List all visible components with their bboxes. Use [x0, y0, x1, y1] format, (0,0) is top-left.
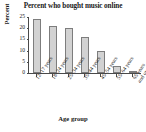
- y-axis-title: Percent: [2, 0, 12, 36]
- bar-chart: Percent who bought music online Percent …: [0, 0, 146, 132]
- x-axis-label-slot: 45–54 years: [93, 77, 109, 111]
- x-axis-label-slot: 18–24 years: [44, 77, 60, 111]
- y-axis-tick-label: 10: [19, 47, 25, 54]
- bar[interactable]: [33, 19, 41, 73]
- x-axis-label-slot: 65 yearsand over: [125, 77, 141, 111]
- y-axis-tick-label: 0: [22, 69, 25, 76]
- y-axis-tick-label: 20: [19, 24, 25, 31]
- x-axis-tick-labels: 12–17 years18–24 years25–34 years35–44 y…: [28, 77, 141, 111]
- y-axis-tick-label: 25: [19, 13, 25, 20]
- x-axis-label-slot: 55–64 years: [109, 77, 125, 111]
- x-axis-label-slot: 35–44 years: [76, 77, 92, 111]
- x-axis-label-slot: 12–17 years: [28, 77, 44, 111]
- y-axis-tick-label: 5: [22, 58, 25, 65]
- y-axis-tick-label: 15: [19, 35, 25, 42]
- x-axis-label-slot: 25–34 years: [60, 77, 76, 111]
- chart-title: Percent who bought music online: [0, 2, 146, 11]
- x-axis-title: Age group: [0, 114, 146, 123]
